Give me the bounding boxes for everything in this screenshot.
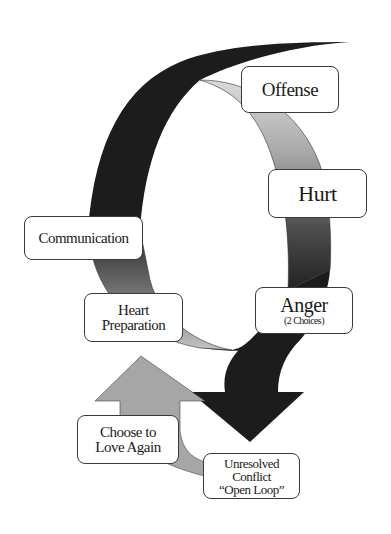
label-unresolved-conflict: Unresolved Conflict “Open Loop” (203, 453, 300, 499)
label-hurt-text: Hurt (298, 183, 336, 205)
label-choose-to-love-again: Choose to Love Again (77, 415, 179, 464)
label-heart-line1: Heart (118, 303, 149, 318)
label-offense: Offense (241, 66, 339, 113)
label-anger: Anger (2 Choices) (255, 287, 353, 334)
label-heart-line2: Preparation (102, 318, 166, 333)
label-offense-text: Offense (262, 80, 318, 99)
label-hurt: Hurt (268, 169, 367, 218)
label-anger-subtext: (2 Choices) (284, 316, 324, 326)
label-choose-line1: Choose to (100, 425, 156, 440)
faint-title (70, 0, 360, 14)
label-choose-line2: Love Again (95, 440, 160, 455)
label-unresolved-line3: “Open Loop” (219, 483, 284, 496)
label-heart-preparation: Heart Preparation (84, 293, 183, 342)
down-arrow-head (190, 392, 304, 442)
label-communication: Communication (24, 216, 143, 260)
label-unresolved-line1: Unresolved (224, 457, 279, 470)
label-unresolved-line2: Conflict (232, 470, 271, 483)
label-anger-text: Anger (280, 295, 327, 315)
label-communication-text: Communication (38, 231, 128, 246)
